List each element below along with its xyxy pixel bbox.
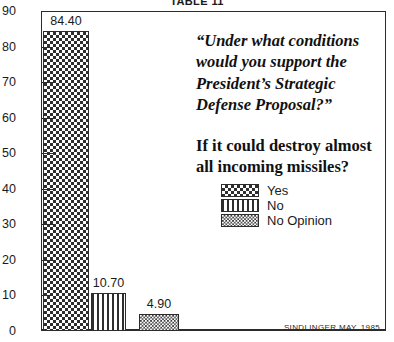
question-quote: “Under what conditions would you support… [196,30,392,116]
legend-item-yes: Yes [221,184,332,197]
question-followup: If it could destroy almost all incoming … [196,135,392,178]
y-tick-mark [42,260,53,261]
y-tick-label: 0 [9,325,16,338]
y-tick-label: 30 [2,218,16,231]
y-tick-mark [42,224,53,225]
legend-swatch-icon [221,199,259,212]
y-tick-mark [42,47,53,48]
y-tick-label: 50 [2,147,16,160]
legend-item-no: No [221,199,332,212]
y-tick-mark [42,82,53,83]
y-tick-label: 80 [2,40,16,53]
bar-no [91,293,126,331]
bar-no-opinion [139,314,179,331]
bar-value-label: 4.90 [139,298,179,311]
page-title: TABLE 11 [0,0,394,7]
chart-legend: YesNoNo Opinion [221,184,332,229]
bar-yes [43,31,89,331]
bar-value-label: 84.40 [43,15,89,28]
question-block: “Under what conditions would you support… [196,30,392,178]
y-tick-mark [42,153,53,154]
y-axis: 0102030405060708090 [0,0,41,342]
y-tick-label: 40 [2,183,16,196]
legend-swatch-icon [221,184,259,197]
y-tick-label: 10 [2,289,16,302]
y-tick-mark [42,118,53,119]
legend-label: No [267,199,284,212]
y-tick-label: 60 [2,111,16,124]
y-tick-mark [42,295,53,296]
y-tick-label: 20 [2,254,16,267]
source-attribution: SINDLINGER MAY, 1985 [284,323,380,332]
legend-item-no-opinion: No Opinion [221,214,332,227]
y-tick-mark [42,189,53,190]
y-tick-label: 70 [2,76,16,89]
bar-value-label: 10.70 [91,277,126,290]
y-tick-label: 90 [2,5,16,18]
legend-label: No Opinion [267,214,332,227]
legend-swatch-icon [221,214,259,227]
legend-label: Yes [267,184,288,197]
